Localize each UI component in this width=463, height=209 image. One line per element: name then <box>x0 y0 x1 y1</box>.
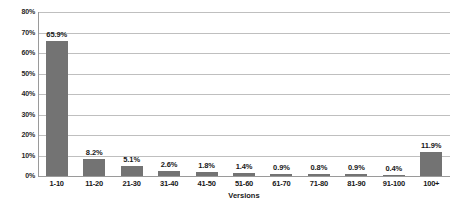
bar-value-label: 1.4% <box>225 162 262 171</box>
x-axis-tick-label: 91-100 <box>375 179 412 191</box>
y-axis-tick-labels: 0%10%20%30%40%50%60%70%80% <box>0 0 35 209</box>
x-axis-tick-label: 31-40 <box>150 179 187 191</box>
x-axis-tick-label: 61-70 <box>263 179 300 191</box>
bar-chart: 0%10%20%30%40%50%60%70%80% 65.9%8.2%5.1%… <box>0 0 463 209</box>
y-axis-tick-label: 50% <box>3 70 35 78</box>
x-axis-tick-label: 71-80 <box>300 179 337 191</box>
bar[interactable] <box>233 173 255 176</box>
bar[interactable] <box>420 152 442 176</box>
x-axis-tick-label: 51-60 <box>225 179 262 191</box>
x-axis-tick-labels: 1-1011-2021-3031-4041-5051-6061-7071-808… <box>38 179 450 191</box>
bar-value-label: 5.1% <box>113 155 150 164</box>
bar-value-label: 2.6% <box>150 160 187 169</box>
bar-value-label: 11.9% <box>413 141 450 150</box>
bar-slot: 1.8% <box>188 12 225 176</box>
x-axis-tick-label: 41-50 <box>188 179 225 191</box>
bar-value-label: 0.9% <box>263 163 300 172</box>
y-axis-tick-label: 20% <box>3 131 35 139</box>
bar-series: 65.9%8.2%5.1%2.6%1.8%1.4%0.9%0.8%0.9%0.4… <box>38 12 450 176</box>
y-axis-tick-label: 10% <box>3 152 35 160</box>
bar-slot: 0.4% <box>375 12 412 176</box>
bar-slot: 0.9% <box>263 12 300 176</box>
bar-slot: 5.1% <box>113 12 150 176</box>
bar-value-label: 0.9% <box>338 163 375 172</box>
x-axis-tick-label: 100+ <box>413 179 450 191</box>
bar[interactable] <box>196 172 218 176</box>
y-axis-tick-label: 30% <box>3 111 35 119</box>
bar-value-label: 1.8% <box>188 161 225 170</box>
bar[interactable] <box>270 174 292 176</box>
bar[interactable] <box>46 41 68 176</box>
bar-value-label: 8.2% <box>75 148 112 157</box>
bar-slot: 2.6% <box>150 12 187 176</box>
bar-slot: 8.2% <box>75 12 112 176</box>
x-axis-tick-label: 11-20 <box>75 179 112 191</box>
bar[interactable] <box>345 174 367 176</box>
bar-value-label: 0.4% <box>375 164 412 173</box>
bar[interactable] <box>158 171 180 176</box>
bar[interactable] <box>308 174 330 176</box>
y-axis-tick-label: 40% <box>3 90 35 98</box>
bar-slot: 1.4% <box>225 12 262 176</box>
bar-value-label: 0.8% <box>300 163 337 172</box>
x-axis-tick-label: 81-90 <box>338 179 375 191</box>
x-axis-baseline <box>38 176 450 177</box>
bar[interactable] <box>83 159 105 176</box>
bar-slot: 0.9% <box>338 12 375 176</box>
bar-slot: 65.9% <box>38 12 75 176</box>
bar-slot: 11.9% <box>413 12 450 176</box>
bar[interactable] <box>383 175 405 176</box>
x-axis-title: Versions <box>38 191 450 201</box>
bar-value-label: 65.9% <box>38 30 75 39</box>
bar-slot: 0.8% <box>300 12 337 176</box>
y-axis-tick-label: 0% <box>3 172 35 180</box>
x-axis-tick-label: 21-30 <box>113 179 150 191</box>
y-axis-tick-label: 60% <box>3 49 35 57</box>
x-axis-tick-label: 1-10 <box>38 179 75 191</box>
y-axis-tick-label: 80% <box>3 8 35 16</box>
y-axis-tick-label: 70% <box>3 29 35 37</box>
bar[interactable] <box>121 166 143 176</box>
